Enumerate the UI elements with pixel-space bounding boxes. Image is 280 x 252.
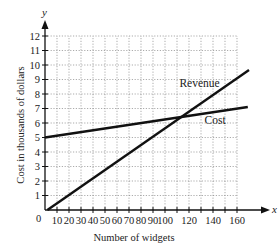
series-label-revenue: Revenue <box>179 77 219 89</box>
y-tick-label: 10 <box>30 60 41 71</box>
x-tick-label: 100 <box>157 215 173 226</box>
origin-label: 0 <box>36 213 41 224</box>
y-tick-label: 11 <box>30 45 40 56</box>
x-tick-label: 160 <box>229 215 245 226</box>
y-axis-letter: y <box>41 6 47 18</box>
x-tick-label: 40 <box>88 215 99 226</box>
cost-revenue-chart: 1020304050607080901001201401601234567891… <box>0 0 280 252</box>
y-tick-label: 2 <box>35 176 40 187</box>
y-axis-arrow-icon <box>42 20 49 29</box>
y-tick-label: 7 <box>35 103 40 114</box>
x-tick-label: 120 <box>181 215 197 226</box>
x-tick-label: 140 <box>205 215 221 226</box>
x-tick-label: 20 <box>64 215 75 226</box>
data-series: RevenueCost <box>45 70 249 210</box>
x-axis-title: Number of widgets <box>93 232 174 243</box>
y-tick-label: 1 <box>35 190 40 201</box>
y-tick-label: 12 <box>30 31 41 42</box>
axes <box>42 20 271 214</box>
x-tick-label: 80 <box>136 215 147 226</box>
y-tick-label: 3 <box>35 161 40 172</box>
x-tick-label: 10 <box>52 215 63 226</box>
y-tick-label: 8 <box>35 89 40 100</box>
y-tick-label: 4 <box>35 147 41 158</box>
axis-labels: y x 0 Number of widgets Cost in thousand… <box>15 6 277 243</box>
x-tick-label: 70 <box>124 215 135 226</box>
axis-ticks: 1020304050607080901001201401601234567891… <box>30 31 245 226</box>
x-axis-letter: x <box>271 203 277 215</box>
series-line-revenue <box>47 70 249 210</box>
x-axis-arrow-icon <box>261 207 270 214</box>
y-axis-title: Cost in thousands of dollars <box>15 66 26 183</box>
y-tick-label: 9 <box>35 74 40 85</box>
x-tick-label: 30 <box>76 215 87 226</box>
x-tick-label: 60 <box>112 215 123 226</box>
y-tick-label: 6 <box>35 118 40 129</box>
y-tick-label: 5 <box>35 132 40 143</box>
x-tick-label: 50 <box>100 215 111 226</box>
series-label-cost: Cost <box>205 114 227 126</box>
